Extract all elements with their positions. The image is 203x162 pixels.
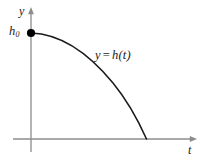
height-time-graph-figure: y t h0 y=h(t) (0, 0, 203, 162)
curve-equation-rhs: h(t) (112, 48, 131, 62)
y-axis-label: y (19, 5, 24, 17)
initial-height-subscript: 0 (16, 30, 20, 39)
curve-equation-lhs: y (95, 48, 101, 62)
initial-height-label: h0 (9, 25, 20, 39)
curve-equation-equals: = (103, 48, 110, 62)
initial-height-symbol: h (9, 24, 15, 38)
t-axis-label: t (188, 144, 191, 156)
t-axis-arrowhead-icon (190, 136, 197, 142)
y-axis-arrowhead-icon (28, 7, 34, 14)
curve-equation-label: y=h(t) (95, 49, 131, 62)
initial-height-point (27, 29, 35, 37)
graph-canvas (0, 0, 203, 162)
